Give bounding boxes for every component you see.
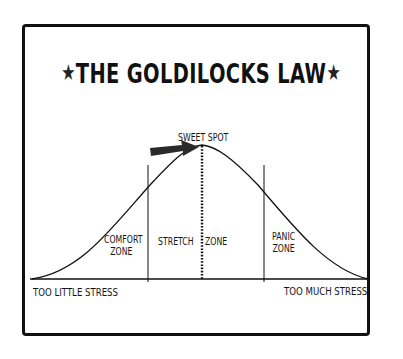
too-much-stress-label: TOO MUCH STRESS bbox=[284, 286, 367, 298]
bell-curve-diagram bbox=[0, 0, 403, 359]
comfort-zone-label: COMFORT ZONE bbox=[104, 234, 143, 258]
bell-curve bbox=[32, 145, 368, 279]
panic-zone-label: PANIC ZONE bbox=[272, 231, 295, 255]
too-little-stress-label: TOO LITTLE STRESS bbox=[33, 287, 118, 299]
sweet-spot-label: SWEET SPOT bbox=[178, 132, 228, 144]
stretch-label: STRETCH bbox=[158, 236, 194, 248]
stretch-zone-label: ZONE bbox=[205, 236, 227, 248]
